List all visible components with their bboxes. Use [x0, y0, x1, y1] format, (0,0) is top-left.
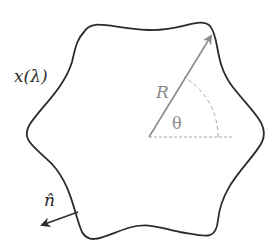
boundary-curve — [27, 23, 264, 239]
radius-label: R — [155, 82, 169, 102]
diagram-canvas: x(λ) R θ n̂ — [0, 0, 275, 248]
normal-arrow — [42, 212, 78, 225]
normal-label: n̂ — [44, 190, 55, 210]
curve-label: x(λ) — [14, 66, 48, 86]
angle-arc — [184, 77, 218, 137]
angle-label: θ — [172, 114, 182, 133]
